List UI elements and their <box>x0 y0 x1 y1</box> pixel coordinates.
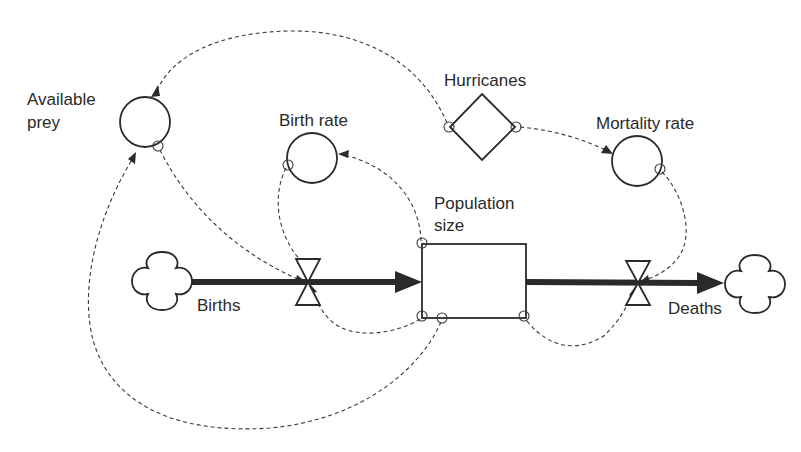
sink-cloud-icon <box>725 255 785 313</box>
population-size-label: size <box>434 216 464 235</box>
link-population-to-birth-rate <box>343 155 421 241</box>
arrowhead-icon <box>338 150 349 158</box>
deaths-label: Deaths <box>668 299 722 318</box>
available-prey-label: Available <box>27 90 96 109</box>
link-hurricanes-to-available-prey <box>155 31 447 123</box>
mortality-rate-label: Mortality rate <box>596 114 694 133</box>
source-cloud-icon <box>132 252 192 310</box>
arrowhead-icon <box>601 145 613 154</box>
available-prey-label: prey <box>27 113 61 132</box>
deaths-flow-pipe <box>526 282 700 283</box>
available-prey-converter[interactable] <box>120 97 170 147</box>
births-flow-arrowhead-icon <box>395 271 422 293</box>
hurricanes-label: Hurricanes <box>444 71 526 90</box>
link-available-prey-to-births <box>160 150 300 280</box>
link-population-to-births <box>311 288 420 333</box>
deaths-flow-arrowhead-icon <box>697 272 724 294</box>
arrowhead-icon <box>151 85 160 97</box>
stock-flow-diagram: Available prey Birth rate Hurricanes Mor… <box>0 0 801 452</box>
births-label: Births <box>197 296 240 315</box>
link-birth-rate-to-births <box>278 168 303 263</box>
link-population-to-deaths <box>527 292 633 346</box>
mortality-rate-converter[interactable] <box>612 136 662 186</box>
link-hurricanes-to-mortality-rate <box>520 127 608 151</box>
link-mortality-rate-to-deaths <box>645 172 686 280</box>
birth-rate-label: Birth rate <box>279 111 348 130</box>
population-size-label: Population <box>434 194 514 213</box>
population-size-stock[interactable] <box>422 244 526 318</box>
arrowhead-icon <box>128 152 136 164</box>
birth-rate-converter[interactable] <box>287 133 337 183</box>
hurricanes-diamond[interactable] <box>450 94 515 160</box>
